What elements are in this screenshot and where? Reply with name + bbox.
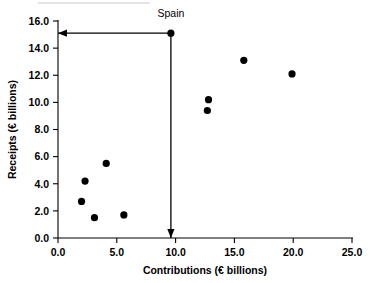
x-axis-ticks: 0.05.010.015.020.025.0 [51, 238, 363, 258]
y-tick-label: 6.0 [34, 150, 49, 162]
spain-annotation-label: Spain [157, 7, 184, 19]
y-axis-title: Receipts (€ billions) [6, 80, 18, 179]
chart-canvas: 0.05.010.015.020.025.0 0.02.04.06.08.010… [0, 0, 380, 283]
data-point [91, 214, 98, 221]
data-point [240, 57, 247, 64]
y-tick-label: 12.0 [29, 69, 50, 81]
y-tick-label: 14.0 [29, 42, 50, 54]
spain-contributions-arrow-head [167, 229, 174, 238]
data-point [120, 211, 127, 218]
y-tick-label: 4.0 [34, 178, 49, 190]
data-point [205, 96, 212, 103]
chart-axes [58, 20, 353, 238]
y-tick-label: 2.0 [34, 205, 49, 217]
x-tick-label: 25.0 [342, 246, 363, 258]
chart-annotations [58, 30, 174, 238]
data-point [103, 160, 110, 167]
x-tick-label: 15.0 [224, 246, 245, 258]
spain-receipts-arrow-head [58, 30, 67, 37]
x-tick-label: 5.0 [109, 246, 124, 258]
data-points [78, 30, 296, 222]
data-point [78, 198, 85, 205]
y-tick-label: 10.0 [29, 96, 50, 108]
x-tick-label: 0.0 [51, 246, 66, 258]
data-point-spain [167, 30, 174, 37]
y-tick-label: 8.0 [34, 123, 49, 135]
y-tick-label: 16.0 [29, 15, 50, 27]
data-point [288, 70, 295, 77]
x-axis-title: Contributions (€ billions) [143, 264, 267, 276]
data-point [81, 177, 88, 184]
data-point [204, 107, 211, 114]
x-tick-label: 10.0 [165, 246, 186, 258]
x-tick-label: 20.0 [283, 246, 304, 258]
scatter-chart: 0.05.010.015.020.025.0 0.02.04.06.08.010… [0, 0, 380, 283]
y-axis-ticks: 0.02.04.06.08.010.012.014.016.0 [29, 15, 58, 244]
y-tick-label: 0.0 [34, 232, 49, 244]
